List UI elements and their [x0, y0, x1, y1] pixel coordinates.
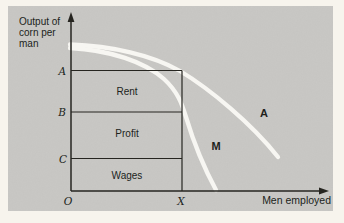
curve-label-a: A — [260, 107, 268, 119]
point-label-c: C — [59, 153, 67, 165]
y-axis-label-line2: corn per — [19, 27, 56, 38]
region-label-profit: Profit — [115, 128, 139, 139]
curve-label-m: M — [211, 140, 220, 152]
point-label-b: B — [57, 106, 66, 118]
point-label-a: A — [57, 65, 66, 77]
region-label-wages: Wages — [112, 170, 143, 181]
region-label-rent: Rent — [116, 86, 137, 97]
y-axis-label-line3: man — [19, 38, 38, 49]
point-label-x: X — [176, 195, 185, 207]
y-axis-label-line1: Output of — [19, 16, 60, 27]
origin-label: O — [64, 195, 73, 207]
diagram-svg: Output of corn per man A B C O X Rent Pr… — [0, 0, 344, 223]
scan-noise-texture — [8, 6, 333, 211]
x-axis-label: Men employed — [262, 194, 331, 206]
